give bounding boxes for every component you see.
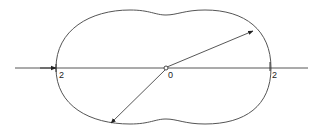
label-left-2: 2	[59, 70, 64, 80]
radius-arrow-upper-right	[167, 31, 253, 67]
radius-arrow-lower-left	[111, 70, 165, 123]
polar-diagram: 2 0 2	[0, 0, 320, 132]
closed-curve	[56, 10, 271, 124]
label-center-0: 0	[168, 70, 173, 80]
label-right-2: 2	[272, 70, 277, 80]
